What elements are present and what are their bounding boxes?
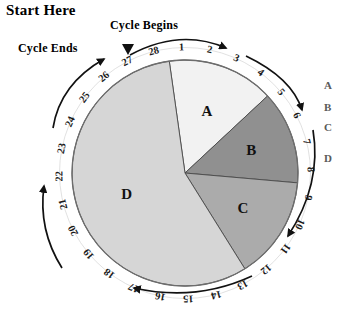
pie-slices-group <box>72 60 298 286</box>
legend-item-b: B <box>324 101 331 113</box>
day-number-1: 1 <box>179 41 185 52</box>
legend-item-c: C <box>324 121 332 133</box>
cycle-ends-label: Cycle Ends <box>18 41 78 56</box>
day-number-22: 22 <box>53 171 64 182</box>
day-number-8: 8 <box>306 167 317 173</box>
cycle-diagram-figure: 1234567891011121314151617181920212223242… <box>0 0 339 315</box>
day-number-15: 15 <box>183 293 194 304</box>
slice-label-d: D <box>121 186 132 202</box>
day-number-23: 23 <box>55 142 68 154</box>
slice-label-c: C <box>237 200 248 216</box>
slice-label-a: A <box>201 103 212 119</box>
outer-arrow-lower-left <box>43 186 62 268</box>
cycle-begins-label: Cycle Begins <box>110 18 178 33</box>
legend-item-a: A <box>324 79 332 91</box>
legend-item-d: D <box>324 152 332 164</box>
slice-label-b: B <box>246 142 256 158</box>
start-here-label: Start Here <box>6 2 76 19</box>
